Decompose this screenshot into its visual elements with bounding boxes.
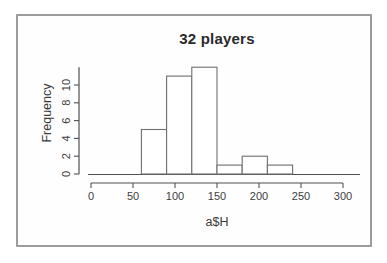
chart-title: 32 players — [91, 30, 343, 47]
histogram-bar — [217, 165, 242, 174]
histogram-bar — [141, 130, 166, 175]
x-axis-tick-label: 250 — [292, 190, 310, 202]
x-axis-label: a$H — [91, 215, 343, 229]
x-axis-tick-label: 100 — [166, 190, 184, 202]
histogram-bar — [192, 67, 217, 174]
x-axis-tick-label: 50 — [127, 190, 139, 202]
y-axis-tick-label: 0 — [60, 171, 72, 177]
y-axis-tick-label: 4 — [60, 135, 72, 141]
histogram-bar — [242, 156, 267, 174]
y-axis-tick-label: 6 — [60, 118, 72, 124]
histogram-bar — [267, 165, 292, 174]
x-axis-tick-label: 300 — [334, 190, 352, 202]
y-axis-tick-label: 2 — [60, 153, 72, 159]
x-axis-tick-label: 150 — [208, 190, 226, 202]
x-axis-tick-label: 200 — [250, 190, 268, 202]
y-axis-tick-label: 8 — [60, 100, 72, 106]
screenshot-root: 0501001502002503000246810 32 players Fre… — [0, 0, 387, 263]
x-axis-tick-label: 0 — [88, 190, 94, 202]
y-axis-tick-label: 10 — [60, 79, 72, 91]
histogram-bar — [167, 76, 192, 174]
y-axis-label: Frequency — [40, 83, 54, 142]
